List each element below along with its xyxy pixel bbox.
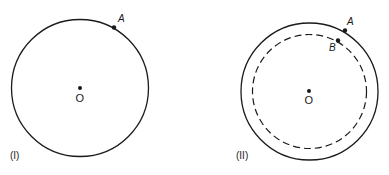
center-dot-1 [78,86,82,90]
figure-2: A B O (II) [236,16,378,161]
point-a-1-label: A [117,13,125,24]
point-a-2-label: A [346,16,354,27]
point-b-2 [336,38,340,42]
diagram-canvas: A O (I) A B O (II) [0,0,389,175]
figure-1: A O (I) [10,13,149,161]
point-a-1 [112,25,116,29]
center-dot-2 [307,89,311,93]
figure-1-caption: (I) [10,150,19,161]
point-b-2-label: B [329,42,336,53]
figure-2-caption: (II) [236,150,248,161]
point-a-2 [343,28,347,32]
center-label-2: O [305,94,314,106]
center-label-1: O [76,92,85,104]
